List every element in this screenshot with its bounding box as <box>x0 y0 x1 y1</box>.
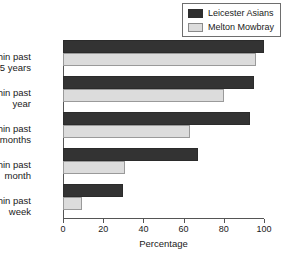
legend-swatch-light-icon <box>188 23 203 32</box>
category-label-line: Within past <box>0 159 31 170</box>
x-tick-80 <box>224 219 225 223</box>
category-label-line: 5 years <box>0 62 31 73</box>
bar-melton-mowbray <box>63 197 82 210</box>
category-label: Within pastmonth <box>0 159 31 181</box>
category-label-line: Within past <box>0 123 31 134</box>
bar-melton-mowbray <box>63 161 125 174</box>
x-tick-label-40: 40 <box>138 224 148 234</box>
chart-legend: Leicester Asians Melton Mowbray <box>182 3 281 37</box>
x-axis-label: Percentage <box>63 238 264 249</box>
category-label-line: year <box>0 98 31 109</box>
x-axis-line <box>63 218 264 219</box>
bar-chart: Leicester Asians Melton Mowbray 0 20 40 … <box>0 0 290 259</box>
category-label-line: Within past <box>0 195 31 206</box>
x-tick-0 <box>63 219 64 223</box>
category-label: Within pastyear <box>0 87 31 109</box>
x-tick-60 <box>184 219 185 223</box>
legend-label-leicester-asians: Leicester Asians <box>208 8 274 18</box>
legend-swatch-dark-icon <box>188 9 203 18</box>
category-label: Within pastweek <box>0 195 31 217</box>
x-tick-20 <box>103 219 104 223</box>
category-label-line: Within past <box>0 51 31 62</box>
legend-item-melton-mowbray: Melton Mowbray <box>188 21 274 33</box>
bar-melton-mowbray <box>63 53 256 66</box>
x-tick-label-80: 80 <box>219 224 229 234</box>
category-label-line: 6 months <box>0 134 31 145</box>
category-label-line: month <box>0 170 31 181</box>
x-tick-label-60: 60 <box>179 224 189 234</box>
bar-leicester-asians <box>63 40 264 53</box>
x-tick-label-20: 20 <box>98 224 108 234</box>
x-tick-label-0: 0 <box>60 224 65 234</box>
x-tick-100 <box>264 219 265 223</box>
legend-label-melton-mowbray: Melton Mowbray <box>208 22 274 32</box>
bar-melton-mowbray <box>63 89 224 102</box>
bar-leicester-asians <box>63 148 198 161</box>
category-label: Within past5 years <box>0 51 31 73</box>
plot-area: 0 20 40 60 80 100 Percentage Within past… <box>63 40 264 218</box>
bar-leicester-asians <box>63 76 254 89</box>
x-tick-label-100: 100 <box>256 224 271 234</box>
x-tick-40 <box>143 219 144 223</box>
category-label-line: Within past <box>0 87 31 98</box>
bar-melton-mowbray <box>63 125 190 138</box>
category-label: Within past6 months <box>0 123 31 145</box>
legend-item-leicester-asians: Leicester Asians <box>188 7 274 19</box>
category-label-line: week <box>0 206 31 217</box>
bar-leicester-asians <box>63 184 123 197</box>
bar-leicester-asians <box>63 112 250 125</box>
